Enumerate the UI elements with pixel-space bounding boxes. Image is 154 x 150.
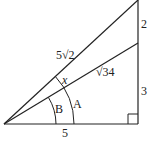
label-right-upper: 2	[141, 17, 147, 31]
label-right-lower: 3	[141, 84, 147, 98]
label-angle-x: x	[61, 73, 68, 87]
diagram-svg: 5√2 √34 2 3 5 x B A	[0, 0, 154, 150]
label-angle-a: A	[73, 97, 82, 111]
label-outer-hypotenuse: 5√2	[56, 48, 75, 62]
label-angle-b: B	[55, 102, 63, 116]
triangle-diagram: 5√2 √34 2 3 5 x B A	[0, 0, 154, 150]
outer-hypotenuse	[4, 0, 138, 124]
label-inner-hypotenuse: √34	[96, 65, 115, 79]
label-base: 5	[62, 126, 68, 140]
right-angle-marker	[128, 114, 138, 124]
